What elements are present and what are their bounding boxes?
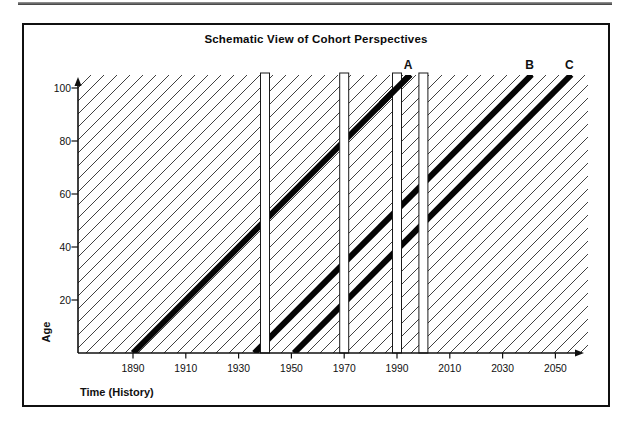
x-tick-label-2010: 2010 [438, 363, 461, 374]
x-tick-label-1930: 1930 [227, 363, 250, 374]
x-tick-label-2030: 2030 [491, 363, 514, 374]
y-tick-label-80: 80 [60, 136, 72, 147]
figure-frame: Schematic View of Cohort Perspectives 18… [22, 23, 610, 407]
period-bar-2000 [419, 73, 428, 353]
x-tick-label-1910: 1910 [174, 363, 197, 374]
cohort-label-B: B [525, 58, 534, 72]
x-tick-label-1950: 1950 [280, 363, 303, 374]
x-tick-label-1990: 1990 [386, 363, 409, 374]
y-tick-label-60: 60 [60, 189, 72, 200]
top-rule [18, 2, 612, 5]
period-bar-1970 [340, 73, 349, 353]
y-axis-title: Age [40, 322, 52, 343]
cohort-chart: 1890191019301950197019902010203020502040… [24, 25, 608, 405]
period-bar-1990 [393, 73, 402, 353]
x-tick-label-2050: 2050 [544, 363, 567, 374]
x-axis-title: Time (History) [80, 386, 154, 398]
period-bar-1940 [261, 73, 270, 353]
cohort-label-C: C [565, 58, 574, 72]
y-tick-label-20: 20 [60, 295, 72, 306]
x-tick-label-1970: 1970 [333, 363, 356, 374]
cohort-label-A: A [404, 58, 413, 72]
y-tick-label-100: 100 [54, 83, 71, 94]
x-tick-label-1890: 1890 [122, 363, 145, 374]
y-tick-label-40: 40 [60, 242, 72, 253]
page-background: Schematic View of Cohort Perspectives 18… [0, 0, 629, 426]
